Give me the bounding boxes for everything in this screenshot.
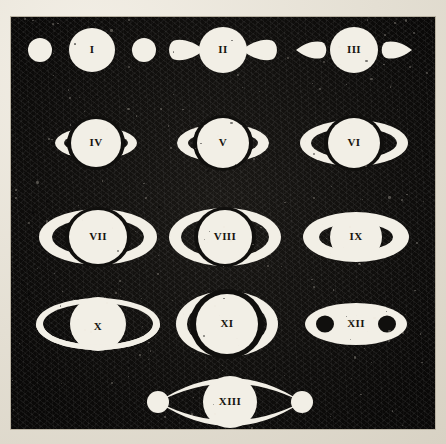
figure-xi[interactable]: XI: [169, 279, 285, 370]
figure-label-ii: II: [218, 43, 227, 55]
figures-layer: IIIIIIIVVVIVIIVIIIIXXXIXIIXIII: [11, 17, 435, 429]
ansa-left: [28, 38, 52, 62]
figure-x[interactable]: X: [29, 288, 167, 361]
figure-label-i: I: [90, 43, 95, 55]
figure-label-iv: IV: [89, 136, 102, 148]
ansa-left: [296, 41, 326, 58]
figure-label-xiii: XIII: [219, 395, 241, 407]
figure-label-v: V: [219, 136, 227, 148]
ansa-right: [132, 38, 156, 62]
plate-seam-1: [11, 429, 435, 430]
figure-vii[interactable]: VII: [32, 196, 164, 279]
figure-iii[interactable]: III: [289, 20, 419, 80]
ansa-right: [242, 40, 277, 60]
figure-viii[interactable]: VIII: [162, 195, 288, 279]
figure-label-xi: XI: [220, 317, 233, 329]
speckle: [435, 187, 436, 188]
ring-tip-knob-left: [147, 391, 169, 413]
figure-ii[interactable]: II: [162, 20, 284, 80]
engraved-plate-page: IIIIIIIVVVIVIIVIIIIXXXIXIIXIII: [0, 0, 446, 444]
figure-ix[interactable]: IX: [296, 197, 416, 277]
figure-vi[interactable]: VI: [293, 108, 415, 179]
ring-tip-knob-right: [291, 391, 313, 413]
figure-iv[interactable]: IV: [48, 112, 144, 174]
plate-frame: IIIIIIIVVVIVIIVIIIIXXXIXIIXIII: [10, 16, 436, 430]
figure-xii[interactable]: XII: [298, 296, 414, 352]
figure-v[interactable]: V: [170, 111, 276, 175]
figure-label-viii: VIII: [214, 230, 236, 242]
figure-label-x: X: [94, 320, 102, 332]
figure-label-vi: VI: [347, 136, 360, 148]
dark-spot-left: [316, 315, 334, 332]
figure-label-vii: VII: [89, 230, 107, 242]
ansa-left: [169, 40, 204, 60]
figure-label-iii: III: [347, 43, 361, 55]
dark-spot-right: [378, 315, 396, 332]
figure-label-xii: XII: [347, 317, 365, 329]
figure-i[interactable]: I: [21, 21, 163, 79]
figure-xiii[interactable]: XIII: [140, 369, 320, 430]
figure-label-ix: IX: [349, 230, 362, 242]
ansa-right: [382, 41, 412, 58]
